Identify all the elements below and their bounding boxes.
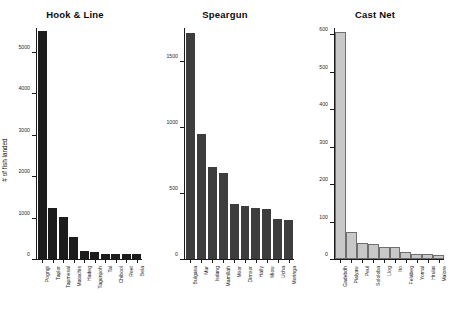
bar-group xyxy=(335,28,444,259)
x-axis-tick xyxy=(406,260,407,263)
x-tick-label-slot: Mamillah xyxy=(218,266,229,314)
bar[interactable] xyxy=(262,209,271,259)
panel-speargun: Speargun 050010001500 BulgasaMurIsdangMa… xyxy=(150,0,300,319)
x-tick-label-slot: Yomal xyxy=(411,266,422,314)
x-axis-tick xyxy=(201,260,202,263)
y-axis-tick xyxy=(330,34,334,35)
bar[interactable] xyxy=(230,204,239,259)
x-tick-label-slot: Tal xyxy=(100,266,111,314)
x-tick-label-slot: Felabeg xyxy=(400,266,411,314)
bar-slot xyxy=(48,28,59,259)
bar-slot xyxy=(207,28,218,259)
bar-slot xyxy=(379,28,390,259)
bar-slot xyxy=(335,28,346,259)
bar[interactable] xyxy=(390,247,401,259)
bar[interactable] xyxy=(411,254,422,259)
x-tick-label: Moringa xyxy=(291,266,297,284)
x-tick-label-slot: Isdang xyxy=(207,266,218,314)
bar[interactable] xyxy=(48,208,57,259)
x-tick-label-slot: Reet xyxy=(121,266,132,314)
x-axis-tick xyxy=(126,260,127,263)
plot-area: 0100200300400500600 GadebdhPialyawPeulSo… xyxy=(334,28,444,260)
bar-slot xyxy=(433,28,444,259)
x-tick-label-slot: Hally xyxy=(250,266,261,314)
bar-slot xyxy=(229,28,240,259)
y-axis-tick xyxy=(330,184,334,185)
x-axis-tick xyxy=(278,260,279,263)
bar[interactable] xyxy=(186,33,195,259)
bar-slot xyxy=(196,28,207,259)
bar-slot xyxy=(69,28,80,259)
bar[interactable] xyxy=(197,134,206,259)
x-tick-label-slot: Moringa xyxy=(283,266,294,314)
y-axis-tick xyxy=(330,259,334,260)
bar[interactable] xyxy=(346,232,357,259)
bar[interactable] xyxy=(251,208,260,259)
bar-slot xyxy=(272,28,283,259)
bar[interactable] xyxy=(368,244,379,259)
x-tick-label-slot: Tapmesal xyxy=(58,266,69,314)
bar[interactable] xyxy=(357,243,368,259)
bar[interactable] xyxy=(69,237,78,259)
plot-area: 010002000300040005000 PogngtTaplorTapmes… xyxy=(36,28,142,260)
bar[interactable] xyxy=(241,206,250,259)
bar[interactable] xyxy=(208,167,217,259)
bar[interactable] xyxy=(335,32,346,259)
x-axis-tick xyxy=(256,260,257,263)
panel-title: Speargun xyxy=(150,9,300,20)
bar[interactable] xyxy=(284,220,293,259)
y-axis-tick-label: 500 xyxy=(319,64,328,70)
bar-slot xyxy=(90,28,101,259)
y-axis-tick-label: 1500 xyxy=(166,53,178,59)
bar[interactable] xyxy=(80,251,89,259)
y-axis-tick xyxy=(180,127,184,128)
y-axis-tick-label: 400 xyxy=(319,101,328,107)
x-tick-label-group: GadebdhPialyawPeulSololobaLlogItoFelabeg… xyxy=(335,266,444,314)
x-axis-tick xyxy=(373,260,374,263)
bar-slot xyxy=(411,28,422,259)
bar-slot xyxy=(240,28,251,259)
y-axis-tick xyxy=(32,259,36,260)
y-axis-tick xyxy=(32,93,36,94)
bar-group xyxy=(37,28,142,259)
x-axis-tick xyxy=(84,260,85,263)
bar[interactable] xyxy=(90,252,99,259)
x-axis-tick xyxy=(42,260,43,263)
bar[interactable] xyxy=(219,173,228,259)
bar[interactable] xyxy=(379,247,390,259)
y-axis-tick xyxy=(32,218,36,219)
y-axis-tick-label: 3000 xyxy=(18,127,30,133)
panel-hook-and-line: Hook & Line # of fish landed 01000200030… xyxy=(0,0,150,319)
x-tick-label-slot: Chibool xyxy=(111,266,122,314)
y-axis-tick xyxy=(180,259,184,260)
bar-slot xyxy=(100,28,111,259)
x-tick-label-slot: Miow xyxy=(261,266,272,314)
bar[interactable] xyxy=(273,219,282,259)
bar[interactable] xyxy=(433,255,444,259)
bar-slot xyxy=(346,28,357,259)
bar[interactable] xyxy=(101,254,110,259)
bar[interactable] xyxy=(122,254,131,259)
bar[interactable] xyxy=(132,254,141,259)
y-axis-tick-label: 4000 xyxy=(18,85,30,91)
bar-slot xyxy=(261,28,272,259)
y-axis-tick-label: 0 xyxy=(27,251,30,257)
y-axis-tick xyxy=(180,193,184,194)
x-tick-label-slot: Mur xyxy=(196,266,207,314)
x-tick-label-slot: Hrulat xyxy=(422,266,433,314)
x-axis-tick xyxy=(267,260,268,263)
bar-slot xyxy=(218,28,229,259)
bar-slot xyxy=(132,28,143,259)
bar[interactable] xyxy=(38,31,47,259)
bar-slot xyxy=(58,28,69,259)
bar-slot xyxy=(368,28,379,259)
bar[interactable] xyxy=(59,217,68,259)
x-tick-label: Malore xyxy=(441,266,447,282)
y-axis-tick-label: 0 xyxy=(175,251,178,257)
bar-slot xyxy=(111,28,122,259)
bar[interactable] xyxy=(422,254,433,259)
y-axis-tick-label: 300 xyxy=(319,139,328,145)
bar[interactable] xyxy=(111,254,120,259)
x-tick-label-slot: Hadeg xyxy=(79,266,90,314)
bar[interactable] xyxy=(400,252,411,259)
